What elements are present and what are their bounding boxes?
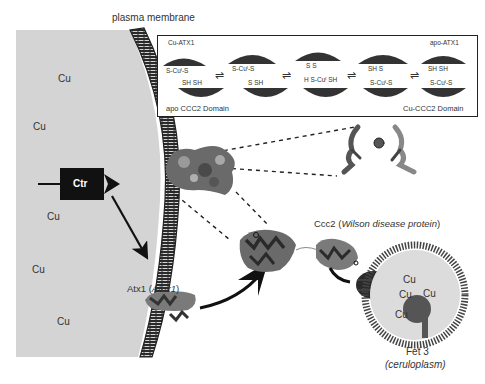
atox1-name: Atox1 (152, 283, 176, 294)
state-3-top: S S (306, 62, 316, 69)
transfer-mechanism-inset: Cu-ATX1 apo-ATX1 apo CCC2 Domain Cu-CCC2… (157, 35, 478, 117)
fet3-sub-label: (ceruloplasm) (385, 359, 446, 370)
state-5-bottom: S-Cuᴵ-S (430, 79, 452, 86)
metal-site-ribbon (344, 127, 414, 172)
state-2-top: S-Cuᴵ-S (232, 65, 254, 72)
ccc2-domain-1 (240, 230, 318, 272)
state-5-top: SH SH (428, 65, 448, 72)
equilibrium-arrow: ⇌ (282, 69, 291, 82)
ccc2-name: Ccc2 ( (314, 218, 341, 229)
atx1-close: ) (176, 283, 179, 294)
vesicle (365, 245, 465, 345)
equilibrium-arrow: ⇌ (215, 69, 224, 82)
atx1-label: Atx1 (Atox1) (127, 283, 179, 294)
plasma-membrane-label: plasma membrane (112, 12, 195, 23)
inset-apo-atx1: apo-ATX1 (430, 39, 459, 46)
vesicle-cu-ion: Cu (403, 274, 416, 285)
cu-ion: Cu (57, 316, 70, 327)
cu-ion: Cu (58, 73, 71, 84)
cu-ion: Cu (33, 121, 46, 132)
vesicle-cu-ion: Cu (395, 309, 408, 320)
cu-ion: Cu (47, 211, 60, 222)
inset-cu-ccc2: Cu-CCC2 Domain (403, 104, 463, 113)
ccc2-label: Ccc2 (Wilson disease protein) (314, 218, 440, 229)
state-1-top: S-Cuᴵ-S (166, 67, 188, 74)
state-4-top: SH S (368, 65, 383, 72)
state-1-bottom: SH SH (182, 79, 202, 86)
ccc2-domain-2 (316, 239, 358, 282)
inset-cu-atx1: Cu-ATX1 (168, 39, 194, 46)
equilibrium-arrow: ⇌ (410, 69, 419, 82)
fet3-label: Fet 3 (406, 346, 429, 357)
state-3-bottom: H S-Cuᴵ SH (304, 76, 337, 83)
ccc2-close: ) (437, 218, 440, 229)
cu-ion: Cu (32, 264, 45, 275)
vesicle-cu-ion: Cu (399, 289, 412, 300)
wilson-protein-name: Wilson disease protein (341, 218, 437, 229)
ctr-label: Ctr (73, 178, 87, 189)
atx1-name: Atx1 ( (127, 283, 152, 294)
vesicle-cu-ion: Cu (423, 288, 436, 299)
equilibrium-arrow: ⇌ (347, 69, 356, 82)
state-2-bottom: S SH (248, 79, 263, 86)
inset-apo-ccc2: apo CCC2 Domain (166, 104, 229, 113)
state-4-bottom: S-Cuᴵ-S (370, 79, 392, 86)
